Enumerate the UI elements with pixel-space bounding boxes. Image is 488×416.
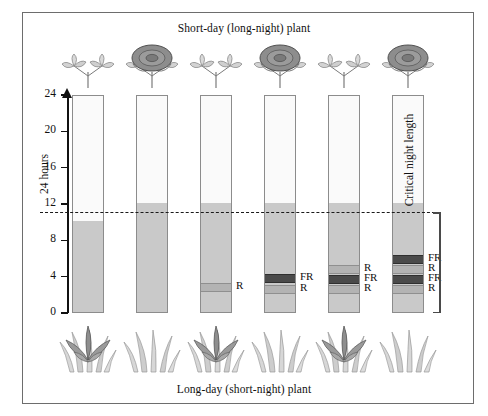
short-day-plant-vegetative-5 [312,42,376,94]
flash-label-r-bar-6-3: R [428,282,435,294]
bar-3 [200,95,232,313]
flash-band-fr-bar-4-0 [265,274,295,283]
critical-night-length-label: Critical night length [403,108,415,212]
y-tick-label-12: 12 [30,196,56,208]
flash-label-r-bar-5-2: R [364,282,371,294]
flash-label-r-bar-4-1: R [300,282,307,294]
night-region-bar-3 [201,203,231,312]
bar-1 [72,95,104,313]
bar-4 [264,95,296,313]
long-day-plant-vegetative-6 [376,320,440,374]
short-day-plant-flowering-2 [120,42,184,94]
flash-band-r-bar-6-1 [393,265,423,274]
bar-5 [328,95,360,313]
y-tick-16 [61,167,68,168]
short-day-plant-flowering-4 [248,42,312,94]
night-region-bar-2 [137,203,167,312]
night-region-bar-5 [329,203,359,312]
bottom-title: Long-day (short-night) plant [0,383,488,395]
y-tick-label-20: 20 [30,123,56,135]
long-day-plant-flowering-3 [184,320,248,374]
long-day-plant-vegetative-4 [248,320,312,374]
bracket-cap-top [433,212,441,214]
y-tick-0 [61,312,68,313]
y-tick-12 [61,203,68,204]
night-region-bar-4 [265,203,295,312]
top-title: Short-day (long-night) plant [0,22,488,34]
long-day-plant-flowering-1 [56,320,120,374]
y-tick-label-24: 24 [30,87,56,99]
bracket-vertical [439,212,441,313]
y-tick-label-8: 8 [30,232,56,244]
bracket-cap-bottom [433,312,441,314]
flash-band-fr-bar-5-1 [329,275,359,284]
y-tick-label-0: 0 [30,305,56,317]
flash-band-r-bar-6-3 [393,285,423,294]
flash-band-r-bar-5-2 [329,285,359,294]
y-tick-24 [61,94,68,95]
short-day-plant-vegetative-1 [56,42,120,94]
long-day-plant-vegetative-2 [120,320,184,374]
bar-2 [136,95,168,313]
flash-band-r-bar-3-0 [201,283,231,292]
flash-band-fr-bar-6-0 [393,255,423,264]
flash-band-fr-bar-6-2 [393,275,423,284]
flash-band-r-bar-5-0 [329,265,359,274]
long-day-plant-flowering-5 [312,320,376,374]
photoperiodism-figure: Short-day (long-night) plant Long-day (s… [0,0,488,416]
flash-label-r-bar-3-0: R [236,280,243,292]
y-tick-label-4: 4 [30,269,56,281]
flash-band-r-bar-4-1 [265,285,295,294]
critical-night-length-line [40,212,440,213]
short-day-plant-flowering-6 [376,42,440,94]
y-tick-4 [61,276,68,277]
y-tick-20 [61,131,68,132]
night-region-bar-1 [73,221,103,312]
short-day-plant-vegetative-3 [184,42,248,94]
y-tick-label-16: 16 [30,160,56,172]
y-tick-8 [61,240,68,241]
